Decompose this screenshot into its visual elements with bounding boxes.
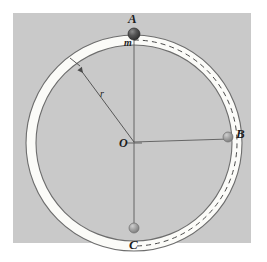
label-point-c: C — [129, 238, 138, 251]
ball-b-bead — [223, 132, 233, 142]
physics-diagram-figure: A B C O m r — [0, 0, 267, 262]
label-point-a: A — [128, 12, 137, 25]
circular-tube-diagram — [0, 0, 267, 262]
label-radius-r: r — [100, 89, 104, 99]
label-point-b: B — [236, 127, 245, 140]
label-mass-m: m — [124, 38, 132, 48]
label-center-o: O — [119, 137, 128, 149]
ball-c-bead — [129, 223, 139, 233]
